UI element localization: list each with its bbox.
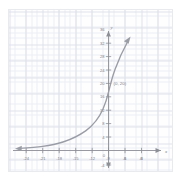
y-tick-label: 20	[100, 81, 105, 86]
x-tick-label: -9	[106, 156, 110, 161]
curve-arrow-right	[124, 36, 131, 43]
y-tick-label: 24	[100, 68, 105, 73]
y-tick-label: 16	[100, 94, 105, 99]
x-tick-labels: -24 -21 -18 -15 -12 -9 -6 -3 0 3 6	[23, 153, 143, 161]
x-tick-label: 3	[124, 156, 127, 161]
y-tick-label: -4	[101, 163, 105, 168]
x-tick-label: -18	[56, 156, 63, 161]
y-tick-label: 8	[102, 121, 105, 126]
x-axis-arrow-right	[156, 148, 162, 153]
x-tick-label: -15	[73, 156, 80, 161]
x-tick-label: -12	[89, 156, 96, 161]
x-tick-label: -24	[23, 156, 30, 161]
graph-paper-panel: -24 -21 -18 -15 -12 -9 -6 -3 0 3 6 -4 4 …	[8, 9, 173, 172]
exponential-curve	[15, 36, 131, 151]
x-axis-label: x	[164, 149, 168, 154]
plot-svg: -24 -21 -18 -15 -12 -9 -6 -3 0 3 6 -4 4 …	[9, 10, 173, 172]
y-intercept-annotation: (0, 20)	[114, 81, 127, 86]
y-tick-label: 36	[100, 27, 105, 32]
x-axis	[13, 148, 161, 153]
x-tick-label: -21	[40, 156, 47, 161]
y-tick-label: 4	[102, 135, 105, 140]
y-tick-label: 28	[100, 54, 105, 59]
y-axis-label: y	[110, 25, 114, 30]
x-tick-label: 6	[140, 156, 143, 161]
y-tick-labels: -4 4 8 12 16 20 24 28 32 36	[100, 27, 105, 167]
y-intercept-label: (0, 20)	[114, 81, 127, 86]
y-tick-label: 32	[100, 41, 105, 46]
y-axis-arrow-up	[106, 31, 111, 37]
exponential-growth-graph: -24 -21 -18 -15 -12 -9 -6 -3 0 3 6 -4 4 …	[0, 0, 181, 181]
